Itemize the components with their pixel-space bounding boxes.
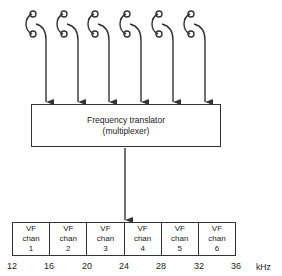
channel-number: 2	[66, 244, 70, 254]
channel-6: VFchan6	[199, 223, 235, 255]
channel-label: chan	[208, 234, 225, 244]
channel-label: chan	[22, 234, 39, 244]
tick-24: 24	[119, 261, 129, 271]
channel-label: chan	[171, 234, 188, 244]
channel-number: 6	[215, 244, 219, 254]
unit-label: kHz	[256, 262, 271, 272]
channel-label: VF	[137, 224, 147, 234]
channel-number: 4	[140, 244, 144, 254]
channel-4: VFchan4	[125, 223, 162, 255]
channel-label: chan	[60, 234, 77, 244]
channel-label: VF	[175, 224, 185, 234]
tick-20: 20	[82, 261, 92, 271]
tick-32: 32	[194, 261, 204, 271]
channel-label: chan	[97, 234, 114, 244]
telephone-icon-2	[57, 11, 78, 102]
channel-number: 1	[29, 244, 33, 254]
channel-5: VFchan5	[162, 223, 199, 255]
telephone-icon-1	[26, 11, 46, 102]
channel-label: VF	[100, 224, 110, 234]
channel-number: 3	[103, 244, 107, 254]
channel-label: chan	[134, 234, 151, 244]
translator-sublabel: (multiplexer)	[103, 126, 150, 137]
translator-label: Frequency translator	[87, 115, 165, 126]
channel-label: VF	[26, 224, 36, 234]
channel-label: VF	[212, 224, 222, 234]
telephone-icon-6	[184, 11, 205, 102]
tick-16: 16	[44, 261, 54, 271]
tick-12: 12	[7, 261, 17, 271]
channel-number: 5	[178, 244, 182, 254]
telephone-icon-4	[120, 11, 141, 102]
channel-label: VF	[63, 224, 73, 234]
telephone-icon-3	[88, 11, 109, 102]
channel-strip: VFchan1 VFchan2 VFchan3 VFchan4 VFchan5 …	[12, 222, 236, 256]
channel-3: VFchan3	[87, 223, 124, 255]
frequency-translator-box: Frequency translator (multiplexer)	[31, 104, 221, 147]
channel-2: VFchan2	[50, 223, 87, 255]
tick-36: 36	[231, 261, 241, 271]
tick-28: 28	[156, 261, 166, 271]
channel-1: VFchan1	[13, 223, 50, 255]
telephone-icon-5	[152, 11, 173, 102]
